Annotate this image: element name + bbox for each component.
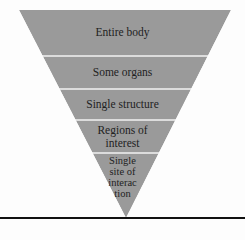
level-label-regions-line2: interest [0,137,245,149]
level-label-site-line4: tion [0,188,245,199]
level-label-entire-body: Entire body [0,26,245,38]
level-label-site-line1: Single [0,155,245,166]
level-label-some-organs: Some organs [0,66,245,78]
level-label-site-line2: site of [0,166,245,177]
level-label-regions-line1: Regions of [0,124,245,136]
level-label-site-line3: interac [0,177,245,188]
level-label-single-structure: Single structure [0,98,245,110]
